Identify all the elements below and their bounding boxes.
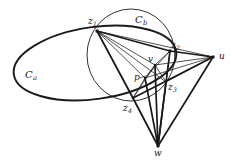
vertex-z1 (95, 29, 98, 32)
label-z2-subscript: 2 (176, 44, 180, 51)
label-p-base: p (134, 72, 140, 82)
vertex-z4 (132, 97, 135, 100)
label-Ca-base: C (25, 69, 33, 80)
vertex-v (154, 64, 157, 67)
vertex-p (144, 77, 147, 80)
label-w: w (154, 149, 162, 158)
geometric-figure: z1z2z3z4vpuwCaCb (0, 0, 231, 166)
label-z4: z4 (123, 104, 132, 113)
label-v-base: v (148, 54, 153, 64)
circle-cb (87, 9, 175, 101)
label-Cb-base: C (135, 14, 143, 25)
segment-layer (97, 31, 213, 146)
label-v: v (148, 55, 153, 64)
label-z1-subscript: 1 (93, 20, 97, 27)
label-Ca-subscript: a (33, 74, 37, 82)
label-z3-subscript: 3 (173, 86, 177, 93)
label-w-base: w (154, 148, 162, 158)
label-z3: z3 (168, 83, 177, 92)
label-Ca: Ca (25, 70, 37, 80)
label-Cb: Cb (135, 15, 147, 25)
vertex-u (211, 55, 214, 58)
label-z2: z2 (171, 41, 180, 50)
figure-canvas (0, 0, 231, 166)
label-Cb-subscript: b (143, 19, 147, 27)
label-z1: z1 (88, 17, 97, 26)
vertex-z3 (165, 81, 168, 84)
label-p: p (134, 73, 140, 82)
label-u: u (219, 52, 225, 61)
label-u-base: u (219, 51, 225, 61)
segment-v-p (145, 65, 155, 78)
label-z4-subscript: 4 (128, 107, 132, 114)
